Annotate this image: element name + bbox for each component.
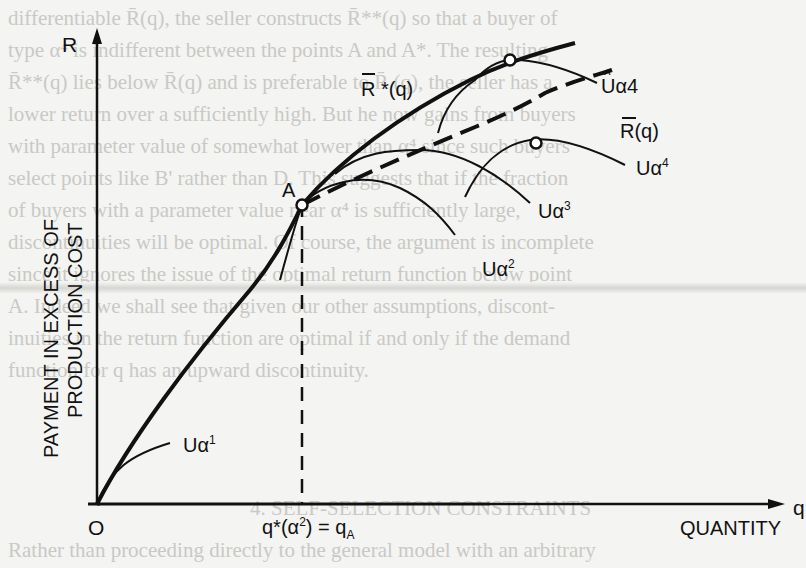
u-alpha4-curve xyxy=(465,139,625,197)
r-bar-label: R(q) xyxy=(620,118,659,142)
r-star-suffix: *(q) xyxy=(375,78,413,100)
u-alpha3-label: Uα3 xyxy=(538,199,571,222)
r-bar-suffix: (q) xyxy=(634,120,658,142)
y-axis-title-line1: PAYMENT IN EXCESS OF xyxy=(40,219,62,458)
r-bar-symbol: R xyxy=(620,120,634,142)
r-star-symbol: R xyxy=(361,78,375,100)
qa-tick-label: q*(α2) = qA xyxy=(262,515,354,542)
point-a-marker-icon xyxy=(297,200,308,211)
x-axis xyxy=(88,499,785,509)
r-star-label: R *(q) xyxy=(361,74,413,100)
qa-tick-main: q*(α xyxy=(262,516,299,538)
hat-accent-icon: ^ xyxy=(604,67,611,83)
y-axis-title-line2: PRODUCTION COST xyxy=(64,222,86,418)
qa-tick-sub: A xyxy=(346,528,354,542)
y-axis-symbol: R xyxy=(62,33,77,56)
u-alpha2-label: Uα2 xyxy=(482,257,515,280)
x-axis-symbol: q xyxy=(793,496,805,519)
r-bar-curve xyxy=(302,70,612,205)
x-axis-title: QUANTITY xyxy=(680,517,781,539)
tangency-upper-marker-icon xyxy=(505,55,516,66)
u-hat-alpha4-curve xyxy=(438,60,597,133)
u-alpha2-curve xyxy=(280,180,455,280)
u-alpha1-label: Uα1 xyxy=(183,433,216,456)
svg-text:R(q): R(q) xyxy=(620,120,659,142)
svg-text:R *(q): R *(q) xyxy=(361,78,413,100)
y-axis-arrow-icon xyxy=(92,28,102,44)
point-a-label: A xyxy=(282,179,296,201)
u-alpha4-label: Uα4 xyxy=(636,156,669,179)
tangency-lower-marker-icon xyxy=(531,138,542,149)
qa-tick-mid: ) = q xyxy=(306,516,347,538)
u-alpha1-curve xyxy=(97,443,170,504)
origin-label: O xyxy=(88,516,104,539)
y-axis xyxy=(92,28,102,505)
y-axis-title: PAYMENT IN EXCESS OF PRODUCTION COST xyxy=(40,219,86,458)
economics-diagram: R q O QUANTITY PAYMENT IN EXCESS OF PROD… xyxy=(0,0,806,568)
x-axis-arrow-icon xyxy=(768,499,785,509)
u-hat-alpha4-label: Uα4 ^ xyxy=(601,67,638,97)
